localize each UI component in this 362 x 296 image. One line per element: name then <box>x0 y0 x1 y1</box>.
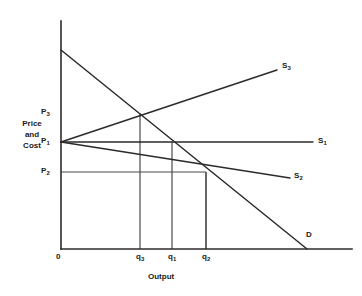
quantity-tick-q3-sub: 3 <box>141 256 144 262</box>
curve-label-s2: S2 <box>294 172 303 180</box>
y-axis-title: Price and Cost <box>10 118 54 151</box>
supply-demand-figure: Price and Cost Output 0 P3 P1 P2 q3 q1 q… <box>0 0 362 296</box>
origin-label: 0 <box>56 253 61 261</box>
price-tick-p1-sub: 1 <box>46 140 49 146</box>
price-tick-p3-sub: 3 <box>46 111 49 117</box>
curve-label-s2-sub: 2 <box>299 175 302 181</box>
price-tick-p3: P3 <box>41 108 50 116</box>
curve-label-s1: S1 <box>318 137 327 145</box>
guide-lines <box>61 113 206 249</box>
curve-label-s3-sub: 3 <box>287 65 290 71</box>
curves-group <box>61 50 313 249</box>
curve-label-s3: S3 <box>282 62 291 70</box>
quantity-tick-q2-sub: 2 <box>207 256 210 262</box>
supply-curve-s3 <box>61 70 277 142</box>
quantity-tick-q1-sub: 1 <box>173 256 176 262</box>
curve-label-s1-sub: 1 <box>323 140 326 146</box>
plot-canvas <box>0 0 362 296</box>
price-tick-p1: P1 <box>41 137 50 145</box>
quantity-tick-q2: q2 <box>202 253 210 261</box>
curve-label-d: D <box>306 231 312 239</box>
price-tick-p2: P2 <box>41 167 50 175</box>
supply-curve-s2 <box>61 142 290 178</box>
quantity-tick-q3: q3 <box>136 253 144 261</box>
price-tick-p2-sub: 2 <box>46 170 49 176</box>
curve-label-d-base: D <box>306 230 312 239</box>
y-axis-title-line-1: Price <box>10 118 54 129</box>
demand-curve-d <box>61 50 307 249</box>
quantity-tick-q1: q1 <box>168 253 176 261</box>
x-axis-title: Output <box>148 272 174 281</box>
